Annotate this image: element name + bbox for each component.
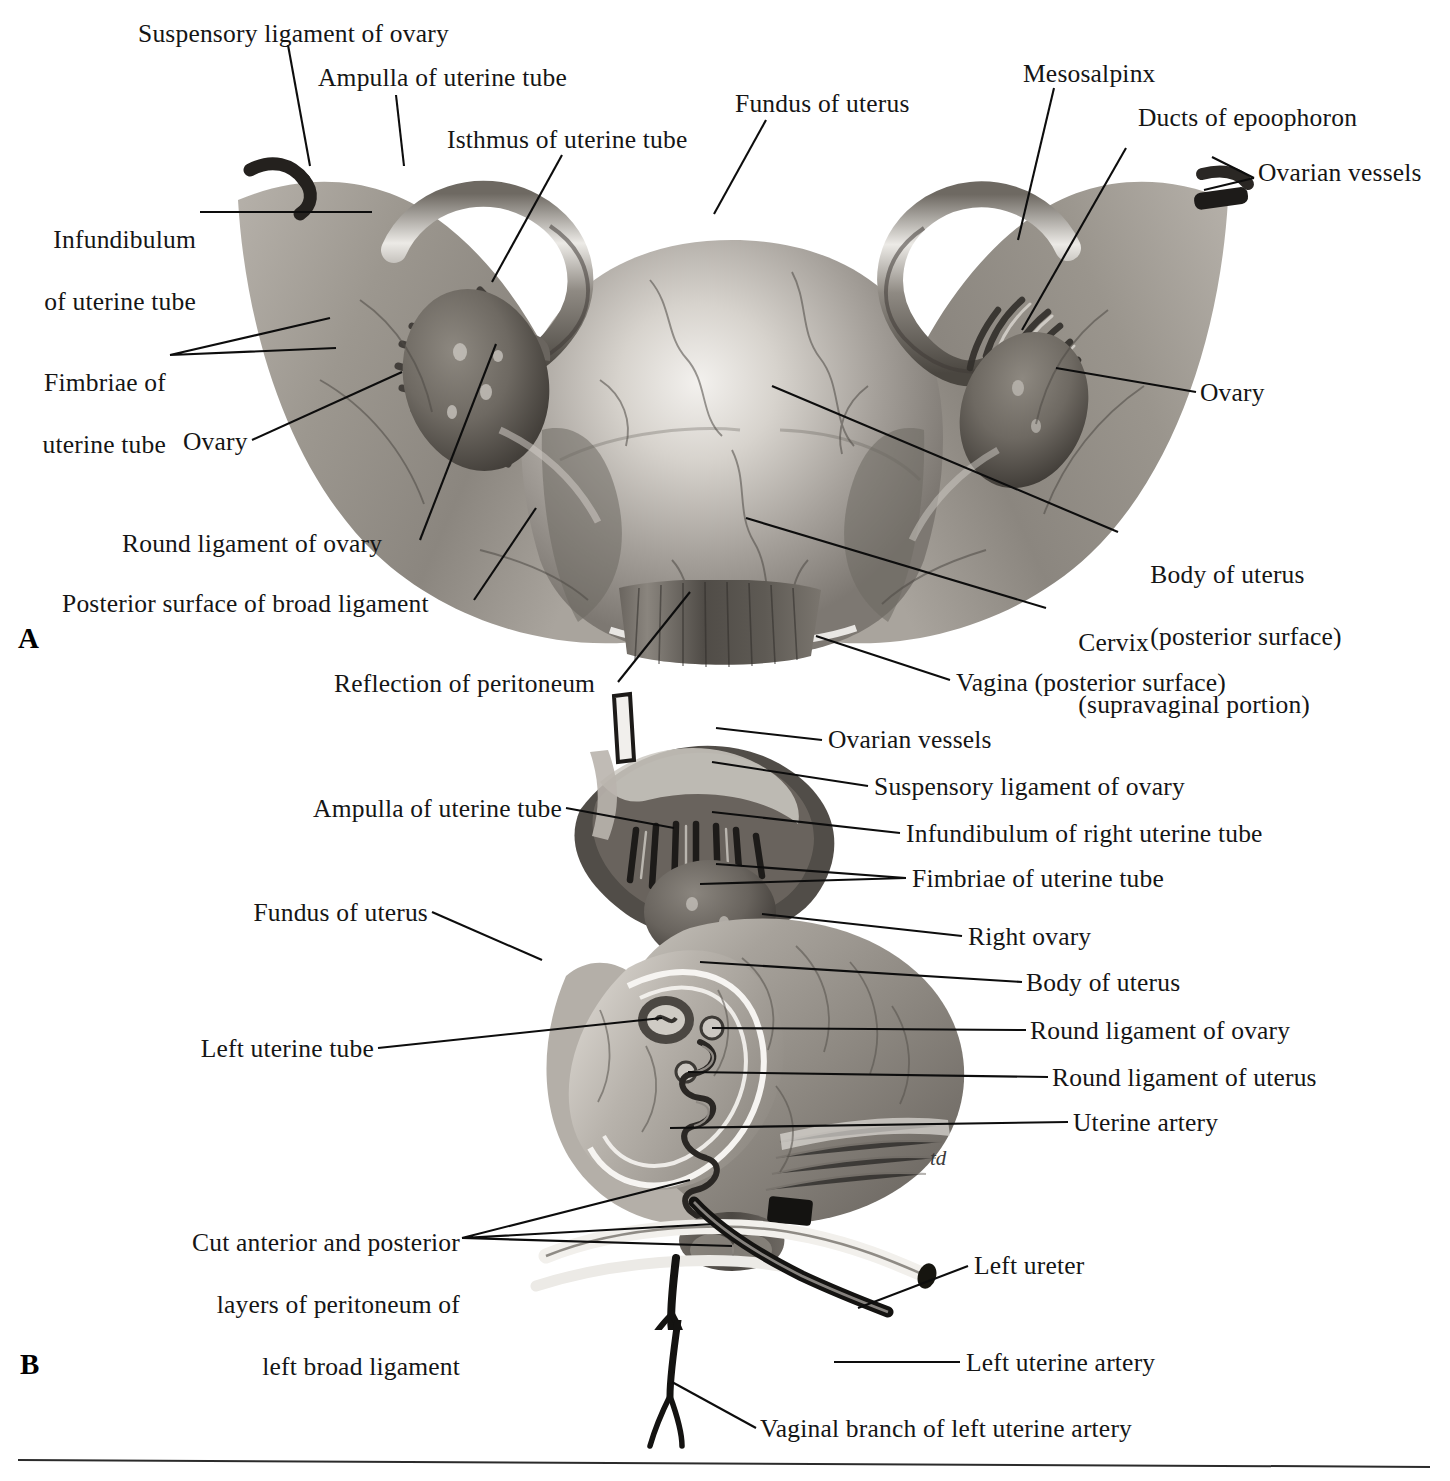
label-ampulla-of-uterine-tube-b: Ampulla of uterine tube <box>200 793 562 824</box>
label-line: uterine tube <box>43 430 166 459</box>
label-fundus-of-uterus-a: Fundus of uterus <box>735 88 910 119</box>
label-line: layers of peritoneum of <box>217 1290 460 1319</box>
label-ampulla-of-uterine-tube-a: Ampulla of uterine tube <box>318 62 567 93</box>
figure-a-marker: A <box>18 622 39 655</box>
label-round-ligament-of-ovary-a: Round ligament of ovary <box>122 528 382 559</box>
label-infundibulum-of-right-uterine-tube-b: Infundibulum of right uterine tube <box>906 818 1263 849</box>
label-line: Cut anterior and posterior <box>192 1228 460 1257</box>
anatomy-plate: Suspensory ligament of ovary Ampulla of … <box>0 0 1450 1481</box>
label-line: Cervix <box>1078 628 1149 657</box>
label-ovarian-vessels-a: Ovarian vessels <box>1258 157 1422 188</box>
label-ovarian-vessels-b: Ovarian vessels <box>828 724 992 755</box>
label-suspensory-ligament-of-ovary-a: Suspensory ligament of ovary <box>138 18 449 49</box>
label-left-uterine-artery-b: Left uterine artery <box>966 1347 1155 1378</box>
artist-signature: td <box>930 1146 946 1171</box>
label-fimbriae-of-uterine-tube-b: Fimbriae of uterine tube <box>912 863 1164 894</box>
label-cut-layers-of-peritoneum-b: Cut anterior and posterior layers of per… <box>60 1196 460 1413</box>
label-line: Body of uterus <box>1150 560 1304 589</box>
figure-a-vagina-cylinder <box>605 580 835 668</box>
label-line: Infundibulum <box>53 225 196 254</box>
label-line: Fimbriae of <box>44 368 166 397</box>
label-line: of uterine tube <box>44 287 196 316</box>
label-isthmus-of-uterine-tube-a: Isthmus of uterine tube <box>447 124 687 155</box>
label-round-ligament-of-ovary-b: Round ligament of ovary <box>1030 1015 1290 1046</box>
label-ovary-left-a: Ovary <box>183 426 248 457</box>
label-reflection-of-peritoneum-a: Reflection of peritoneum <box>334 668 595 699</box>
label-body-of-uterus-b: Body of uterus <box>1026 967 1180 998</box>
label-right-ovary-b: Right ovary <box>968 921 1091 952</box>
label-infundibulum-of-uterine-tube-a: Infundibulum of uterine tube <box>0 193 196 348</box>
label-mesosalpinx-a: Mesosalpinx <box>1023 58 1156 89</box>
label-ducts-of-epoophoron-a: Ducts of epoophoron <box>1138 102 1357 133</box>
label-fimbriae-of-uterine-tube-a: Fimbriae of uterine tube <box>0 336 166 491</box>
label-vagina-posterior-surface-a: Vagina (posterior surface) <box>956 667 1226 698</box>
label-posterior-surface-of-broad-ligament-a: Posterior surface of broad ligament <box>62 588 429 619</box>
figure-b-marker: B <box>20 1348 39 1381</box>
label-fundus-of-uterus-b: Fundus of uterus <box>120 897 428 928</box>
label-suspensory-ligament-of-ovary-b: Suspensory ligament of ovary <box>874 771 1185 802</box>
label-ovary-right-a: Ovary <box>1200 377 1265 408</box>
label-round-ligament-of-uterus-b: Round ligament of uterus <box>1052 1062 1317 1093</box>
label-left-ureter-b: Left ureter <box>974 1250 1085 1281</box>
bottom-rule <box>18 1459 1430 1468</box>
label-left-uterine-tube-b: Left uterine tube <box>60 1033 374 1064</box>
label-vaginal-branch-of-left-uterine-artery-b: Vaginal branch of left uterine artery <box>760 1413 1132 1444</box>
label-uterine-artery-b: Uterine artery <box>1073 1107 1218 1138</box>
figure-b-vaginal-branch-extension <box>620 1320 740 1450</box>
label-line: left broad ligament <box>262 1352 460 1381</box>
